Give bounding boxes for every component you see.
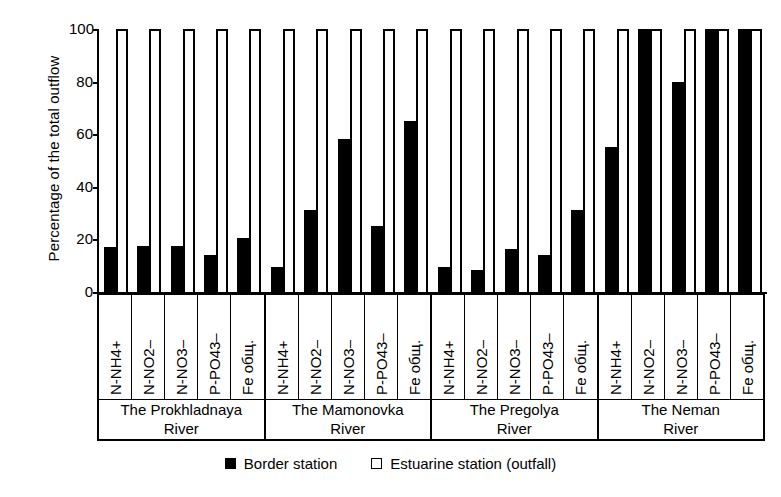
bar-estuarine-station[interactable] — [116, 29, 128, 292]
bar-pair — [533, 29, 566, 292]
bar-estuarine-station[interactable] — [283, 29, 295, 292]
x-group-cell: N-NH4+N-NO2–N-NO3–P-PO43–Fe общ.The Preg… — [432, 295, 599, 439]
legend-swatch-filled-icon — [225, 458, 236, 469]
bar-border-station[interactable] — [237, 238, 249, 292]
x-tick-label: N-NH4+ — [440, 340, 457, 395]
bar-pair — [600, 29, 633, 292]
bar-border-station[interactable] — [705, 29, 717, 292]
bar-border-station[interactable] — [505, 249, 517, 292]
bar-border-station[interactable] — [638, 29, 650, 292]
x-tick-label-cell: P-PO43– — [531, 295, 564, 399]
bar-pair — [132, 29, 165, 292]
legend-label: Estuarine station (outfall) — [390, 455, 556, 472]
bar-border-station[interactable] — [204, 255, 216, 292]
x-tick-label: Fe общ. — [239, 340, 256, 395]
bar-border-station[interactable] — [371, 226, 383, 292]
x-tick-label-row: N-NH4+N-NO2–N-NO3–P-PO43–Fe общ. — [599, 295, 764, 399]
bar-pair — [400, 29, 433, 292]
bar-border-station[interactable] — [672, 82, 684, 292]
x-tick-label: N-NO3– — [339, 340, 356, 395]
bar-pair — [700, 29, 733, 292]
bar-estuarine-station[interactable] — [684, 29, 696, 292]
x-tick-label-cell: N-NO2– — [299, 295, 332, 399]
bar-estuarine-station[interactable] — [416, 29, 428, 292]
x-tick-label: N-NO2– — [473, 340, 490, 395]
chart-legend: Border stationEstuarine station (outfall… — [0, 455, 781, 472]
x-tick-label-cell: N-NH4+ — [99, 295, 132, 399]
bar-estuarine-station[interactable] — [483, 29, 495, 292]
bar-pair — [299, 29, 332, 292]
bar-border-station[interactable] — [304, 210, 316, 292]
x-group-label: The ProkhladnayaRiver — [99, 399, 264, 439]
plot-area: 020406080100 — [97, 29, 767, 294]
bar-estuarine-station[interactable] — [650, 29, 662, 292]
bar-pair — [433, 29, 466, 292]
x-tick-label: P-PO43– — [539, 333, 556, 395]
bar-estuarine-station[interactable] — [216, 29, 228, 292]
x-tick-label: N-NO2– — [306, 340, 323, 395]
bar-estuarine-station[interactable] — [316, 29, 328, 292]
legend-label: Border station — [244, 455, 337, 472]
x-tick-label-cell: N-NH4+ — [432, 295, 465, 399]
bar-pair — [567, 29, 600, 292]
x-tick-label-cell: N-NO3– — [165, 295, 198, 399]
bar-pair — [366, 29, 399, 292]
x-tick-label-cell: Fe общ. — [564, 295, 596, 399]
x-tick-label-row: N-NH4+N-NO2–N-NO3–P-PO43–Fe общ. — [99, 295, 264, 399]
bar-border-station[interactable] — [471, 270, 483, 292]
bar-pair — [233, 29, 266, 292]
legend-item[interactable]: Estuarine station (outfall) — [371, 455, 556, 472]
x-group-label: The MamonovkaRiver — [266, 399, 431, 439]
bar-border-station[interactable] — [338, 139, 350, 292]
bar-border-station[interactable] — [738, 29, 750, 292]
x-tick-label-cell: N-NO2– — [465, 295, 498, 399]
x-tick-label: N-NH4+ — [107, 340, 124, 395]
bar-estuarine-station[interactable] — [583, 29, 595, 292]
x-tick-label-cell: P-PO43– — [365, 295, 398, 399]
bar-estuarine-station[interactable] — [517, 29, 529, 292]
bar-pair — [199, 29, 232, 292]
bar-estuarine-station[interactable] — [550, 29, 562, 292]
bar-pair — [734, 29, 767, 292]
x-tick-label-cell: Fe общ. — [398, 295, 430, 399]
bar-estuarine-station[interactable] — [149, 29, 161, 292]
x-tick-label: P-PO43– — [206, 333, 223, 395]
x-tick-label-cell: N-NO2– — [132, 295, 165, 399]
x-tick-label: N-NO3– — [173, 340, 190, 395]
bar-estuarine-station[interactable] — [717, 29, 729, 292]
bar-border-station[interactable] — [171, 246, 183, 292]
x-group-label-line1: The Mamonovka — [292, 401, 404, 420]
bar-border-station[interactable] — [271, 267, 283, 292]
bar-estuarine-station[interactable] — [249, 29, 261, 292]
bar-border-station[interactable] — [538, 255, 550, 292]
bar-estuarine-station[interactable] — [183, 29, 195, 292]
x-group-label-line2: River — [292, 420, 404, 439]
x-tick-label: P-PO43– — [705, 333, 722, 395]
bar-estuarine-station[interactable] — [383, 29, 395, 292]
bar-estuarine-station[interactable] — [450, 29, 462, 292]
bar-pair — [633, 29, 666, 292]
bar-pair — [266, 29, 299, 292]
x-tick-label-cell: N-NO3– — [665, 295, 698, 399]
bar-border-station[interactable] — [137, 246, 149, 292]
bar-border-station[interactable] — [438, 267, 450, 292]
bar-border-station[interactable] — [404, 121, 416, 292]
bar-pair — [667, 29, 700, 292]
bars-container — [99, 29, 767, 292]
x-group-cell: N-NH4+N-NO2–N-NO3–P-PO43–Fe общ.The Prok… — [99, 295, 266, 439]
bar-pair — [333, 29, 366, 292]
bar-estuarine-station[interactable] — [617, 29, 629, 292]
bar-estuarine-station[interactable] — [750, 29, 762, 292]
bar-group — [99, 29, 266, 292]
x-group-label: The PregolyaRiver — [432, 399, 597, 439]
bar-border-station[interactable] — [104, 247, 116, 292]
bar-estuarine-station[interactable] — [350, 29, 362, 292]
x-tick-label: N-NO3– — [506, 340, 523, 395]
x-tick-label-cell: N-NO3– — [332, 295, 365, 399]
x-group-label-line1: The Neman — [642, 401, 720, 420]
legend-item[interactable]: Border station — [225, 455, 337, 472]
bar-border-station[interactable] — [605, 147, 617, 292]
bar-border-station[interactable] — [571, 210, 583, 292]
x-tick-label-cell: N-NO3– — [498, 295, 531, 399]
x-tick-label: N-NO2– — [140, 340, 157, 395]
